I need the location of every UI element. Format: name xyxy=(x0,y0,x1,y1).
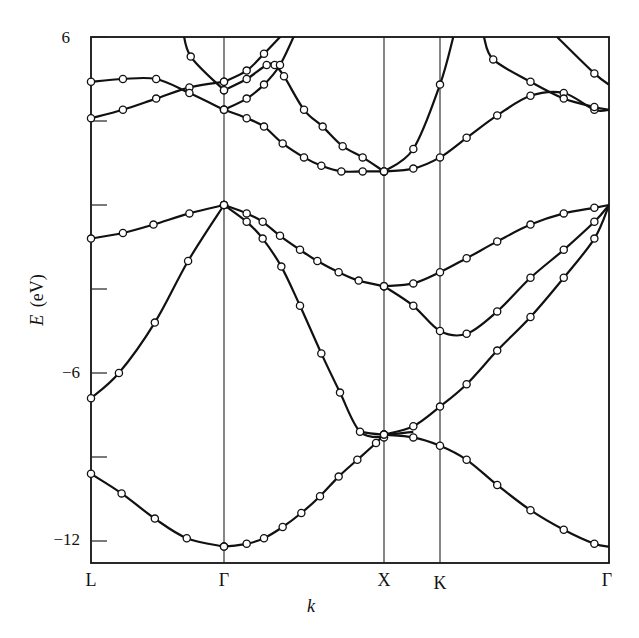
k-label-gamma-1: Γ xyxy=(219,570,229,590)
data-point-marker xyxy=(410,145,417,152)
plot-frame xyxy=(91,37,609,563)
data-point-marker xyxy=(184,257,191,264)
data-point-marker xyxy=(410,302,417,309)
data-point-marker xyxy=(463,255,470,262)
data-point-marker xyxy=(243,75,250,82)
ytick-label-minus12: −12 xyxy=(53,530,80,549)
data-point-marker xyxy=(87,235,94,242)
band-1-curve xyxy=(91,474,224,547)
data-point-marker xyxy=(151,515,158,522)
data-point-marker xyxy=(220,201,227,208)
data-point-marker xyxy=(436,81,443,88)
data-point-marker xyxy=(298,509,305,516)
data-point-marker xyxy=(527,274,534,281)
data-point-marker xyxy=(356,428,363,435)
data-point-marker xyxy=(220,87,227,94)
data-point-marker xyxy=(591,103,598,110)
data-point-marker xyxy=(463,330,470,337)
x-axis-title: k xyxy=(307,596,316,616)
data-point-marker xyxy=(243,210,250,217)
data-point-marker xyxy=(318,350,325,357)
data-point-marker xyxy=(276,232,283,239)
data-point-marker xyxy=(560,274,567,281)
data-point-marker xyxy=(153,75,160,82)
data-point-marker xyxy=(380,283,387,290)
data-point-marker xyxy=(183,535,190,542)
data-point-marker xyxy=(119,75,126,82)
data-point-marker xyxy=(260,50,267,57)
data-point-marker xyxy=(296,302,303,309)
data-point-marker xyxy=(186,210,193,217)
data-point-marker xyxy=(153,95,160,102)
data-point-marker xyxy=(591,204,598,211)
data-point-marker xyxy=(259,218,266,225)
svg-text:E (eV): E (eV) xyxy=(27,274,48,326)
data-point-marker xyxy=(436,403,443,410)
data-point-marker xyxy=(296,246,303,253)
data-point-marker xyxy=(318,162,325,169)
band-1-curve xyxy=(224,435,384,547)
data-point-marker xyxy=(463,456,470,463)
band-curve-xkg xyxy=(384,435,609,547)
band-structure-chart: 6 −6 −12 E (eV) L Γ X K Γ k xyxy=(0,0,639,638)
data-point-marker xyxy=(494,347,501,354)
data-point-marker xyxy=(151,319,158,326)
data-point-marker xyxy=(410,280,417,287)
band-curve-xkg xyxy=(384,37,453,171)
data-point-marker xyxy=(278,263,285,270)
data-point-marker xyxy=(354,456,361,463)
k-label-gamma-2: Γ xyxy=(602,570,612,590)
band-curve-xkg xyxy=(384,205,609,286)
data-point-marker xyxy=(410,423,417,430)
ytick-label-minus6: −6 xyxy=(62,363,80,382)
data-markers xyxy=(87,50,598,550)
data-point-marker xyxy=(319,123,326,130)
data-point-marker xyxy=(87,470,94,477)
data-point-marker xyxy=(339,143,346,150)
data-point-marker xyxy=(115,369,122,376)
data-point-marker xyxy=(338,168,345,175)
band-2-curve xyxy=(224,205,384,437)
data-point-marker xyxy=(279,140,286,147)
data-point-marker xyxy=(591,218,598,225)
data-point-marker xyxy=(527,313,534,320)
data-point-marker xyxy=(335,473,342,480)
data-point-marker xyxy=(527,92,534,99)
data-point-marker xyxy=(243,218,250,225)
data-point-marker xyxy=(260,81,267,88)
data-point-marker xyxy=(436,327,443,334)
data-point-marker xyxy=(410,165,417,172)
k-label-X: X xyxy=(378,570,391,590)
data-point-marker xyxy=(150,221,157,228)
data-point-marker xyxy=(243,67,250,74)
data-point-marker xyxy=(380,168,387,175)
k-label-K: K xyxy=(434,573,447,593)
data-point-marker xyxy=(591,235,598,242)
data-point-marker xyxy=(527,507,534,514)
data-point-marker xyxy=(220,543,227,550)
y-axis-title: E (eV) xyxy=(27,274,48,326)
data-point-marker xyxy=(410,434,417,441)
data-point-marker xyxy=(494,481,501,488)
data-point-marker xyxy=(119,106,126,113)
data-point-marker xyxy=(260,123,267,130)
data-point-marker xyxy=(560,210,567,217)
data-point-marker xyxy=(494,308,501,315)
data-point-marker xyxy=(280,73,287,80)
data-point-marker xyxy=(490,56,497,63)
data-point-marker xyxy=(119,229,126,236)
data-point-marker xyxy=(87,395,94,402)
data-point-marker xyxy=(359,168,366,175)
data-point-marker xyxy=(87,78,94,85)
data-point-marker xyxy=(527,78,534,85)
data-point-marker xyxy=(118,490,125,497)
data-point-marker xyxy=(436,442,443,449)
data-point-marker xyxy=(372,439,379,446)
band-curves xyxy=(91,29,609,547)
data-point-marker xyxy=(591,70,598,77)
data-point-marker xyxy=(243,115,250,122)
data-point-marker xyxy=(279,523,286,530)
data-point-marker xyxy=(243,95,250,102)
data-point-marker xyxy=(463,134,470,141)
data-point-marker xyxy=(314,257,321,264)
